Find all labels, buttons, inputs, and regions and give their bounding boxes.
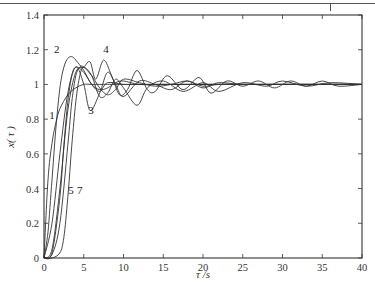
curve-4 xyxy=(44,60,362,258)
plot-area-border xyxy=(44,15,362,258)
curve-5 xyxy=(44,67,362,259)
curve-label-7: 7 xyxy=(77,184,83,196)
x-tick-label: 5 xyxy=(81,262,86,273)
x-tick-label: 0 xyxy=(41,262,46,273)
y-tick-label: 0 xyxy=(34,253,39,264)
curve-label-5: 5 xyxy=(68,184,74,196)
y-tick-label: 0.2 xyxy=(26,218,39,229)
y-tick-label: 0.4 xyxy=(26,184,40,195)
curve-label-4: 4 xyxy=(103,43,109,55)
x-axis-title: τ /s xyxy=(196,268,210,280)
y-tick-label: 1.2 xyxy=(26,45,39,56)
curve-label-3: 3 xyxy=(88,104,94,116)
x-tick-label: 10 xyxy=(118,262,129,273)
y-tick-label: 1 xyxy=(34,79,39,90)
x-tick-label: 40 xyxy=(357,262,368,273)
x-tick-label: 30 xyxy=(277,262,288,273)
response-curves xyxy=(44,57,362,259)
axis-ticks: 051015202530354000.20.40.60.811.21.4 xyxy=(26,10,367,273)
curve-7 xyxy=(44,67,362,258)
curve-2 xyxy=(44,57,362,258)
x-tick-label: 35 xyxy=(317,262,328,273)
curve-label-1: 1 xyxy=(49,109,55,121)
y-tick-label: 0.8 xyxy=(26,114,39,125)
y-axis-title: x( τ ) xyxy=(4,126,17,149)
y-tick-label: 0.6 xyxy=(26,149,39,160)
plot-frame xyxy=(44,15,362,258)
x-tick-label: 25 xyxy=(238,262,249,273)
step-response-chart: 051015202530354000.20.40.60.811.21.4 123… xyxy=(0,0,375,293)
y-tick-label: 1.4 xyxy=(26,10,40,21)
x-tick-label: 15 xyxy=(158,262,169,273)
curve-6 xyxy=(44,66,362,258)
curve-3 xyxy=(44,67,362,258)
curve-label-2: 2 xyxy=(54,43,60,55)
